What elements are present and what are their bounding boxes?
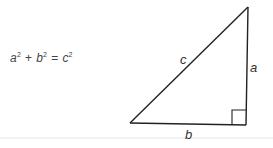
- label-a: a: [250, 60, 257, 75]
- label-b: b: [185, 127, 192, 142]
- right-angle-marker: [232, 110, 246, 125]
- leg-b: [130, 123, 246, 125]
- hypotenuse-c: [130, 7, 248, 123]
- right-triangle-diagram: c a b: [0, 0, 273, 148]
- leg-a: [246, 7, 248, 125]
- label-c: c: [180, 52, 187, 67]
